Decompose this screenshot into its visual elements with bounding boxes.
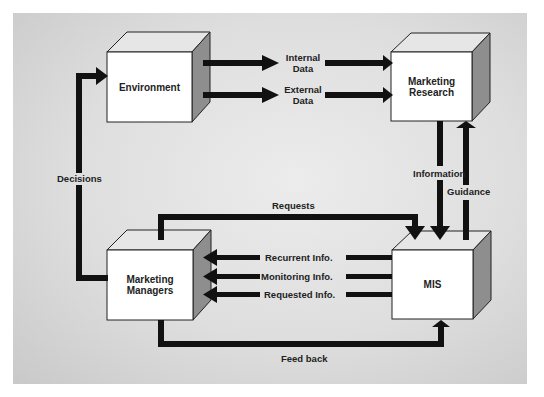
external-data-line2: Data bbox=[282, 95, 324, 106]
requested-info-label: Requested Info. bbox=[264, 289, 335, 300]
marketing-managers-line1: Marketing bbox=[126, 274, 173, 285]
marketing-research-line1: Marketing bbox=[408, 76, 455, 87]
information-label: Information bbox=[413, 168, 465, 179]
guidance-arrow bbox=[456, 121, 476, 240]
internal-data-label: Internal Data bbox=[282, 52, 324, 74]
marketing-research-label: Marketing Research bbox=[391, 52, 472, 121]
environment-label: Environment bbox=[107, 52, 192, 122]
mis-text: MIS bbox=[424, 279, 442, 290]
external-data-line1: External bbox=[282, 84, 324, 95]
monitoring-info-label: Monitoring Info. bbox=[261, 271, 333, 282]
marketing-managers-label: Marketing Managers bbox=[107, 250, 193, 320]
requests-label: Requests bbox=[272, 200, 315, 211]
feed-back-label: Feed back bbox=[281, 353, 327, 364]
environment-text: Environment bbox=[119, 82, 180, 93]
mis-label: MIS bbox=[392, 250, 473, 319]
marketing-managers-line2: Managers bbox=[127, 285, 174, 296]
external-data-label: External Data bbox=[282, 84, 324, 106]
guidance-label: Guidance bbox=[447, 186, 490, 197]
feed-back-arrow bbox=[158, 320, 450, 347]
marketing-research-line2: Research bbox=[409, 87, 454, 98]
internal-data-line2: Data bbox=[282, 63, 324, 74]
internal-data-line1: Internal bbox=[282, 52, 324, 63]
recurrent-info-label: Recurrent Info. bbox=[265, 252, 333, 263]
decisions-label: Decisions bbox=[57, 173, 102, 184]
information-arrow bbox=[430, 121, 450, 240]
